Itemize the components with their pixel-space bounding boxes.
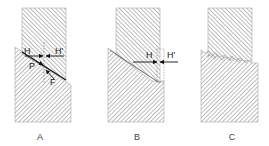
panel-a: H H' P F A <box>15 8 71 142</box>
panel-label-b: B <box>134 132 140 142</box>
force-label-h-b: H <box>146 50 153 60</box>
diagram-canvas: H H' P F A H H' B C <box>0 0 269 146</box>
panel-label-a: A <box>37 132 43 142</box>
panel-c: C <box>201 8 258 142</box>
force-label-f: F <box>50 77 56 87</box>
force-label-h-prime-b: H' <box>167 50 175 60</box>
panel-label-c: C <box>229 132 236 142</box>
panel-b: H H' B <box>108 8 178 142</box>
force-label-h-prime-a: H' <box>55 46 63 56</box>
lower-block-c <box>201 50 258 122</box>
force-label-h-a: H <box>24 46 31 56</box>
force-label-p: P <box>29 61 35 71</box>
